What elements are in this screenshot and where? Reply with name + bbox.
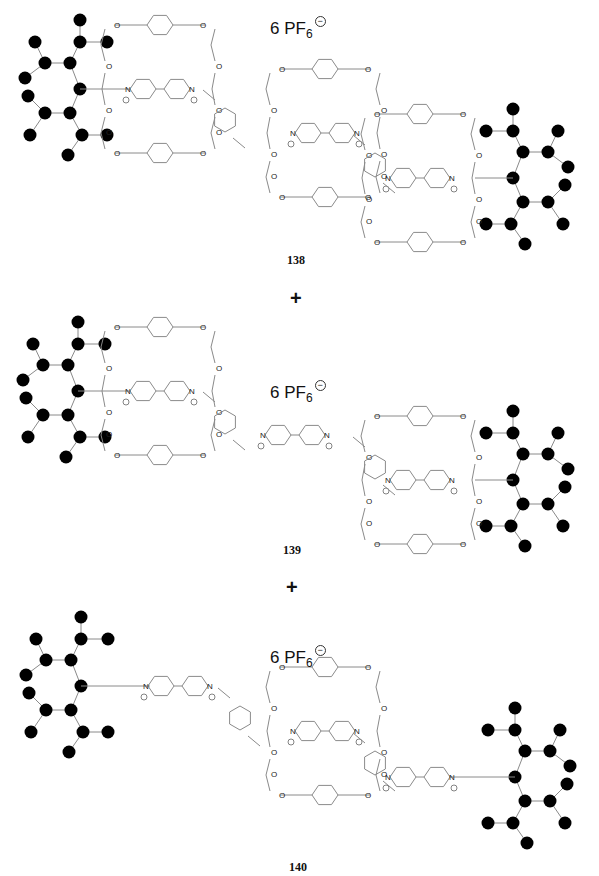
bond	[267, 117, 270, 133]
dendron-node-icon	[519, 745, 532, 758]
nitrogen-label: N	[143, 682, 149, 691]
dendron-node-icon	[509, 702, 522, 715]
dendron-node-icon	[23, 687, 36, 700]
oxygen-label: O	[200, 451, 206, 460]
pyridinium-ring	[182, 676, 208, 695]
nitrogen-label: N	[449, 174, 455, 183]
oxygen-label: O	[476, 217, 482, 226]
xylylene-ring	[230, 706, 251, 730]
pyridinium-ring	[148, 676, 174, 695]
oxygen-label: O	[366, 195, 372, 204]
ch2-bond	[233, 440, 245, 450]
nitrogen-label: N	[260, 431, 266, 440]
oxygen-label: O	[200, 21, 206, 30]
bond	[361, 524, 365, 540]
negative-charge-icon: −	[315, 16, 326, 27]
counterion-subscript: 6	[306, 656, 313, 670]
pyridinium-ring	[390, 168, 416, 187]
bond	[377, 133, 380, 149]
hydroquinone-ring	[312, 187, 338, 206]
oxygen-label: O	[216, 364, 222, 373]
dendron-node-icon	[22, 431, 35, 444]
bond	[212, 391, 215, 407]
bond	[267, 731, 270, 747]
bond	[102, 73, 105, 89]
dendron-node-icon	[64, 57, 77, 70]
bond	[471, 206, 475, 222]
dendron-node-icon	[39, 57, 52, 70]
oxygen-label: O	[106, 128, 112, 137]
hydroquinone-ring	[147, 15, 173, 34]
dendron-node-icon	[76, 129, 89, 142]
bond	[361, 420, 365, 436]
positive-charge-icon	[258, 443, 264, 449]
bond	[211, 45, 215, 61]
oxygen-label: O	[365, 663, 371, 672]
nitrogen-label: N	[385, 476, 391, 485]
pyridinium-ring	[130, 79, 156, 98]
bond	[266, 671, 270, 687]
bond	[362, 480, 365, 496]
bond	[377, 731, 380, 747]
hydroquinone-ring	[407, 534, 433, 553]
bond	[266, 89, 270, 105]
oxygen-label: O	[365, 791, 371, 800]
hydroquinone-ring	[407, 406, 433, 425]
nitrogen-label: N	[449, 476, 455, 485]
ch2-bond	[248, 736, 260, 746]
counterion-label: 6 PF6−	[270, 16, 326, 41]
nitrogen-label: N	[125, 85, 131, 94]
dendron-node-icon	[99, 338, 112, 351]
oxygen-label: O	[460, 238, 466, 247]
positive-charge-icon	[451, 785, 457, 791]
bond	[266, 177, 270, 193]
oxygen-label: O	[114, 21, 120, 30]
pyridinium-ring	[164, 381, 190, 400]
bond	[266, 73, 270, 89]
dendron-node-icon	[542, 498, 555, 511]
nitrogen-label: N	[290, 129, 296, 138]
bond	[471, 436, 475, 452]
positive-charge-icon	[191, 399, 197, 405]
hydroquinone-ring	[312, 785, 338, 804]
ch2-bond	[353, 437, 365, 447]
dendron-node-icon	[77, 726, 90, 739]
nitrogen-label: N	[125, 387, 131, 396]
oxygen-label: O	[271, 106, 277, 115]
dendron-node-icon	[62, 149, 75, 162]
oxygen-label: O	[106, 106, 112, 115]
dendron-node-icon	[519, 795, 532, 808]
positive-charge-icon	[288, 141, 294, 147]
counterion-formula: 6 PF	[270, 383, 306, 402]
plus-operator: +	[290, 288, 302, 308]
dendron-node-icon	[521, 837, 534, 850]
bond	[471, 508, 475, 524]
dendron-node-icon	[557, 520, 570, 533]
dendron-node-icon	[557, 218, 570, 231]
dendron-node-icon	[39, 107, 52, 120]
oxygen-label: O	[271, 172, 277, 181]
dendron-node-icon	[37, 359, 50, 372]
dendron-node-icon	[559, 179, 572, 192]
dendron-node-icon	[505, 520, 518, 533]
dendron-node-icon	[102, 726, 115, 739]
dendron-node-icon	[507, 427, 520, 440]
negative-charge-icon: −	[315, 645, 326, 656]
oxygen-label: O	[381, 704, 387, 713]
oxygen-label: O	[200, 149, 206, 158]
oxygen-label: O	[374, 412, 380, 421]
oxygen-label: O	[271, 770, 277, 779]
counterion-label: 6 PF6−	[270, 645, 326, 670]
oxygen-label: O	[374, 238, 380, 247]
oxygen-label: O	[460, 110, 466, 119]
positive-charge-icon	[326, 443, 332, 449]
bond	[211, 29, 215, 45]
dendron-node-icon	[62, 359, 75, 372]
dendron-node-icon	[482, 817, 495, 830]
pyridinium-ring	[299, 425, 325, 444]
oxygen-label: O	[106, 364, 112, 373]
dendron-node-icon	[480, 125, 493, 138]
bond	[266, 759, 270, 775]
dendron-node-icon	[62, 409, 75, 422]
dendron-node-icon	[74, 431, 87, 444]
